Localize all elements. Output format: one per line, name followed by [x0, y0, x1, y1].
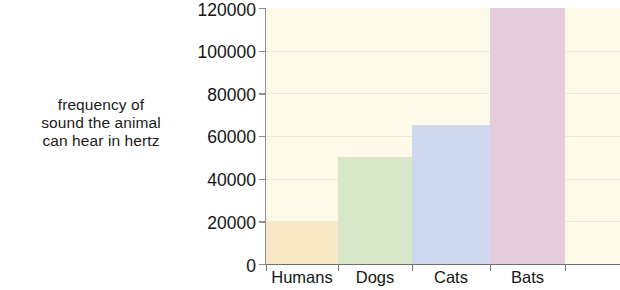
x-tick-label-dogs: Dogs [338, 268, 412, 287]
bar-dogs [338, 157, 412, 264]
y-tick-label-60000: 60000 [176, 127, 256, 148]
bar-cats [412, 125, 490, 264]
y-tick-label-0: 0 [176, 256, 256, 277]
y-tick-label-20000: 20000 [176, 213, 256, 234]
x-tick-4 [565, 264, 566, 271]
bar-humans [266, 221, 338, 264]
bar-chart: frequency of sound the animal can hear i… [0, 0, 620, 290]
y-tick-120000 [259, 8, 266, 9]
y-axis-title-line-1: frequency of [8, 96, 194, 114]
y-tick-60000 [259, 136, 266, 137]
y-tick-label-120000: 120000 [176, 0, 256, 21]
gridline-80000 [266, 93, 620, 94]
x-axis-line [265, 264, 620, 265]
y-tick-80000 [259, 93, 266, 94]
y-tick-label-100000: 100000 [176, 42, 256, 63]
x-tick-label-bats: Bats [490, 268, 565, 287]
y-axis-title-line-2: sound the animal [8, 114, 194, 132]
y-tick-40000 [259, 179, 266, 180]
y-axis-title-line-3: can hear in hertz [8, 132, 194, 150]
x-tick-label-humans: Humans [266, 268, 338, 287]
y-tick-100000 [259, 51, 266, 52]
bar-bats [490, 8, 565, 264]
y-tick-label-40000: 40000 [176, 170, 256, 191]
x-tick-label-cats: Cats [412, 268, 490, 287]
plot-area [266, 8, 620, 264]
y-tick-label-80000: 80000 [176, 85, 256, 106]
y-tick-20000 [259, 221, 266, 222]
gridline-100000 [266, 51, 620, 52]
y-tick-0 [259, 264, 266, 265]
y-axis-title: frequency of sound the animal can hear i… [8, 96, 194, 150]
